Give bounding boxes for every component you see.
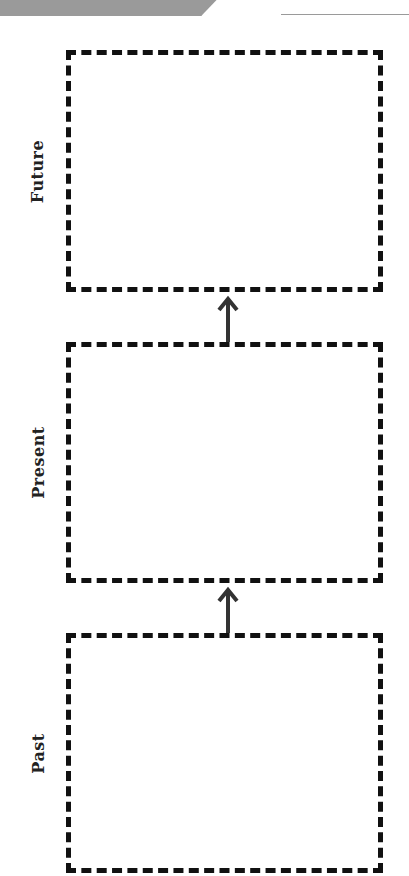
label-present: Present — [26, 342, 50, 583]
name-line — [281, 14, 409, 15]
box-past — [66, 633, 383, 873]
arrow-up-icon — [216, 292, 240, 344]
box-future — [66, 50, 383, 292]
arrow-up-icon — [216, 583, 240, 635]
label-future: Future — [26, 50, 50, 292]
label-past: Past — [26, 633, 50, 873]
box-present — [66, 342, 383, 583]
title-banner — [0, 0, 230, 16]
